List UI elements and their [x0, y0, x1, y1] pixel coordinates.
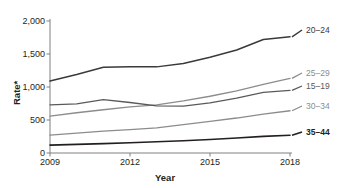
- series-label-20-24: 20–24: [306, 26, 330, 35]
- series-label-25-29: 25–29: [306, 69, 330, 78]
- x-axis-title: Year: [155, 172, 175, 183]
- y-axis-title: Rate*: [11, 81, 22, 105]
- line-chart: 2,000 1,500 1,000 500 0 2009 2012 2015 2…: [0, 0, 346, 188]
- series-line-15-19: [50, 90, 290, 106]
- series-line-25-29: [50, 78, 290, 116]
- series-line-30-34: [50, 111, 290, 135]
- series-label-35-44: 35–44: [306, 128, 330, 137]
- x-tick-label-2009: 2009: [30, 158, 70, 167]
- series-leader-20-24: [292, 30, 302, 37]
- chart-series-lines: [50, 37, 290, 145]
- series-leader-15-19: [292, 86, 302, 90]
- y-tick-label-500: 500: [6, 116, 45, 125]
- y-tick-label-1500: 1,500: [6, 50, 45, 59]
- chart-axes: [47, 19, 293, 157]
- series-label-15-19: 15–19: [306, 82, 330, 91]
- series-line-35-44: [50, 135, 290, 145]
- x-tick-label-2015: 2015: [190, 158, 230, 167]
- series-label-30-34: 30–34: [306, 102, 330, 111]
- series-leader-25-29: [292, 73, 302, 78]
- series-leader-30-34: [292, 106, 302, 111]
- series-leader-35-44: [292, 132, 302, 135]
- series-line-20-24: [50, 37, 290, 81]
- x-tick-label-2012: 2012: [110, 158, 150, 167]
- chart-series-leader-lines: [292, 30, 302, 135]
- y-tick-label-2000: 2,000: [6, 17, 45, 26]
- x-tick-label-2018: 2018: [270, 158, 310, 167]
